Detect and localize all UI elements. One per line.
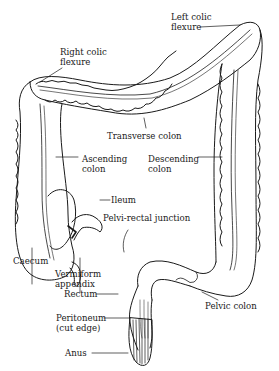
label-line: Right colic xyxy=(60,47,107,57)
label-line: colon xyxy=(148,164,199,174)
label-ascending-colon: Ascending colon xyxy=(82,154,127,174)
label-line: Peritoneum xyxy=(56,313,106,323)
label-anus: Anus xyxy=(65,348,87,358)
label-transverse-colon: Transverse colon xyxy=(107,131,182,141)
label-line: flexure xyxy=(171,22,211,32)
label-rectum: Rectum xyxy=(64,289,98,299)
label-peritoneum: Peritoneum (cut edge) xyxy=(56,313,106,333)
label-line: Vermiform xyxy=(55,269,101,279)
label-text: Rectum xyxy=(64,289,98,299)
label-text: Pelvi-rectal junction xyxy=(103,213,190,223)
label-text: Transverse colon xyxy=(107,131,182,141)
label-text: Pelvic colon xyxy=(205,301,257,311)
label-descending-colon: Descending colon xyxy=(148,154,199,174)
label-text: Ileum xyxy=(111,195,136,205)
label-line: Ascending xyxy=(82,154,127,164)
label-line: Descending xyxy=(148,154,199,164)
label-line: Left colic xyxy=(171,12,211,22)
label-line: flexure xyxy=(60,57,107,67)
label-text: Caecum xyxy=(13,256,48,266)
label-vermiform-appendix: Vermiform appendix xyxy=(55,269,101,289)
label-pelvic-colon: Pelvic colon xyxy=(205,301,257,311)
label-right-colic-flexure: Right colic flexure xyxy=(60,47,107,67)
label-caecum: Caecum xyxy=(13,256,48,266)
label-text: Anus xyxy=(65,348,87,358)
label-ileum: Ileum xyxy=(111,195,136,205)
label-line: (cut edge) xyxy=(56,323,106,333)
label-line: appendix xyxy=(55,279,101,289)
label-left-colic-flexure: Left colic flexure xyxy=(171,12,211,32)
label-line: colon xyxy=(82,164,127,174)
label-pelvi-rectal-junction: Pelvi-rectal junction xyxy=(103,213,190,223)
colon-diagram: Left colic flexure Right colic flexure T… xyxy=(0,0,279,371)
ileum-shape xyxy=(72,215,102,240)
colon-illustration xyxy=(0,0,279,371)
